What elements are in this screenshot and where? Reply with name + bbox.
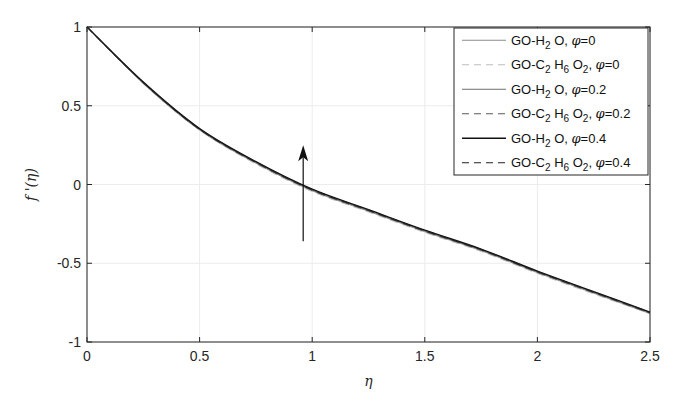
legend: GO-H2 O, φ=0GO-C2 H6 O2, φ=0GO-H2 O, φ=0… <box>454 28 648 175</box>
x-tick-label: 1 <box>308 348 316 364</box>
x-tick-label: 2.5 <box>640 348 660 364</box>
trend-arrow <box>298 145 308 241</box>
legend-box <box>454 28 648 175</box>
y-tick-labels: 10.50-0.5-1 <box>57 19 81 350</box>
line-chart: 00.511.522.5 10.50-0.5-1 η f '(η) GO-H2 … <box>0 0 688 410</box>
y-tick-label: 0.5 <box>62 98 82 114</box>
y-tick-label: 1 <box>73 19 81 35</box>
y-tick-label: -0.5 <box>57 255 81 271</box>
x-axis-label: η <box>364 373 373 389</box>
x-tick-label: 0.5 <box>190 348 210 364</box>
y-axis-label: f '(η) <box>23 168 39 202</box>
y-tick-label: -1 <box>69 334 82 350</box>
x-tick-label: 1.5 <box>415 348 435 364</box>
x-tick-label: 2 <box>534 348 542 364</box>
x-tick-labels: 00.511.522.5 <box>83 348 660 364</box>
x-tick-label: 0 <box>83 348 91 364</box>
y-tick-label: 0 <box>73 177 81 193</box>
